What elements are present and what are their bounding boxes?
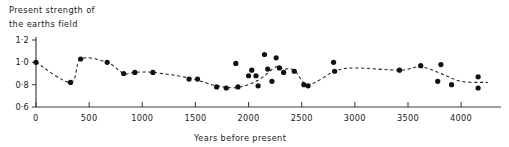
- data-point: [235, 84, 240, 89]
- data-point: [150, 70, 155, 75]
- x-tick-label: 500: [81, 113, 98, 123]
- data-point: [68, 80, 73, 85]
- scatter-chart: Present strength of the earths field 0·6…: [0, 0, 509, 147]
- data-point: [246, 73, 251, 78]
- axes: [32, 37, 501, 107]
- y-tick-label: 0·6: [15, 102, 29, 112]
- data-point: [449, 82, 454, 87]
- data-point: [121, 71, 126, 76]
- data-point: [186, 76, 191, 81]
- data-point: [132, 70, 137, 75]
- origin-label: 0: [33, 113, 39, 123]
- x-tick-label: 1000: [131, 113, 153, 123]
- x-axis-tick-labels: 5001000150020002500300035004000: [81, 113, 472, 123]
- data-point: [438, 62, 443, 67]
- data-point: [274, 55, 279, 60]
- data-point: [435, 79, 440, 84]
- data-point: [277, 65, 282, 70]
- data-point: [233, 61, 238, 66]
- data-point: [269, 79, 274, 84]
- data-point: [292, 69, 297, 74]
- y-tick-label: 0·8: [15, 80, 29, 90]
- y-tick-label: 1·0: [15, 57, 29, 67]
- trend-line-path: [36, 58, 488, 88]
- data-point: [33, 60, 38, 65]
- y-tick-label: 1·2: [15, 35, 29, 45]
- data-point: [281, 70, 286, 75]
- chart-title-line-1: Present strength of: [9, 5, 96, 15]
- x-tick-label: 2000: [238, 113, 260, 123]
- trend-line: [36, 58, 488, 88]
- data-point: [224, 85, 229, 90]
- x-tick-label: 2500: [291, 113, 313, 123]
- data-point: [305, 83, 310, 88]
- x-tick-label: 3500: [397, 113, 419, 123]
- data-point: [397, 68, 402, 73]
- x-tick-label: 4000: [450, 113, 472, 123]
- data-point: [214, 84, 219, 89]
- data-point: [105, 60, 110, 65]
- y-axis-tick-labels: 0·60·81·01·2: [15, 35, 29, 112]
- data-point: [78, 56, 83, 61]
- chart-figure: Present strength of the earths field 0·6…: [0, 0, 509, 147]
- x-axis-title: Years before present: [193, 133, 287, 143]
- data-points: [33, 52, 480, 91]
- data-point: [332, 69, 337, 74]
- data-point: [418, 63, 423, 68]
- data-point: [249, 68, 254, 73]
- data-point: [265, 66, 270, 71]
- data-point: [195, 76, 200, 81]
- data-point: [476, 74, 481, 79]
- data-point: [262, 52, 267, 57]
- chart-title-line-2: the earths field: [9, 19, 78, 29]
- x-tick-label: 3000: [344, 113, 366, 123]
- data-point: [331, 60, 336, 65]
- data-point: [256, 83, 261, 88]
- data-point: [253, 73, 258, 78]
- x-tick-label: 1500: [184, 113, 206, 123]
- data-point: [476, 85, 481, 90]
